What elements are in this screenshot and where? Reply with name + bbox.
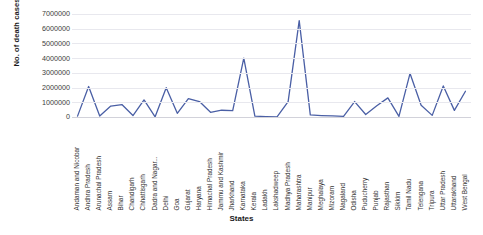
gridline [72, 29, 471, 30]
x-axis-tick-label: Madhya Pradesh [284, 162, 290, 210]
x-axis-tick-label: Karnataka [240, 181, 246, 210]
x-axis-tick-label: Sikkim [395, 191, 401, 210]
y-axis-tick-label: 0 [66, 113, 70, 120]
x-axis-tick-label: Kerala [251, 192, 257, 210]
line-chart: No. of death cases 700000060000005000000… [0, 0, 483, 235]
x-axis-tick-label: West Bengal [461, 174, 467, 210]
x-axis-tick-label: Maharashtra [295, 174, 301, 210]
x-axis-tick-label: Uttarakhand [450, 175, 456, 210]
y-axis-tick-label: 7000000 [42, 10, 70, 17]
gridline [72, 43, 471, 44]
x-axis-tick-label: Gujarat [184, 189, 190, 210]
x-axis-tick-label: Nagaland [340, 183, 346, 210]
x-axis-tick-label: Punjab [373, 190, 379, 210]
y-axis-tick-label: 4000000 [42, 55, 70, 62]
gridline [72, 102, 471, 103]
x-axis-tick-label: Rajasthan [384, 181, 390, 210]
x-axis-tick-label: Lakshadweep [273, 171, 279, 210]
x-axis-tick-label: Puducherry [362, 177, 368, 210]
x-axis-tick-label: Chhattisgarh [140, 174, 146, 210]
x-axis-tick-label: Bihar [118, 195, 124, 210]
x-axis-tick-label: Manipur [306, 187, 312, 210]
y-axis-tick-label: 6000000 [42, 25, 70, 32]
plot-area [72, 14, 471, 117]
gridline [72, 14, 471, 15]
x-axis-tick-label: Telengana [417, 181, 423, 211]
x-axis-tick-label: Delhi [162, 195, 168, 210]
x-axis-tick-label: Arunachal Pradesh [96, 156, 102, 210]
x-axis-tick-label: Mizoram [328, 186, 334, 211]
x-axis-title: States [0, 214, 483, 223]
x-axis-tick-label: Jharkhand [229, 180, 235, 210]
y-axis-tick-label: 3000000 [42, 69, 70, 76]
x-axis-tick-labels: Andaman and NicobarAndhra PradeshArunach… [72, 118, 471, 210]
x-axis-tick-label: Andaman and Nicobar [74, 146, 80, 210]
x-axis-tick-label: Tamil Nadu [406, 178, 412, 210]
x-axis-tick-label: Assam [107, 190, 113, 210]
x-axis-tick-label: Jammu and Kashmir [218, 151, 224, 210]
y-axis-tick-label: 2000000 [42, 84, 70, 91]
x-axis-tick-label: Himachal Pradesh [207, 158, 213, 210]
x-axis-tick-label: Goa [173, 198, 179, 210]
x-axis-tick-label: Uttar Pradesh [439, 171, 445, 210]
x-axis-tick-label: Andhra Pradesh [85, 164, 91, 210]
y-axis-tick-labels: 7000000600000050000004000000300000020000… [22, 14, 70, 117]
x-axis-tick-label: Ladakh [262, 189, 268, 210]
x-axis-tick-label: Chandigarh [129, 177, 135, 210]
x-axis-tick-label: Haryana [195, 186, 201, 210]
gridline [72, 58, 471, 59]
y-axis-tick-label: 1000000 [42, 99, 70, 106]
x-axis-tick-label: Odisha [351, 190, 357, 210]
y-axis-tick-label: 5000000 [42, 40, 70, 47]
x-axis-tick-label: Dadra and Nagar... [151, 156, 157, 210]
y-axis-title: No. of death cases [12, 0, 21, 93]
gridline [72, 88, 471, 89]
gridline [72, 73, 471, 74]
x-axis-tick-label: Tripura [428, 190, 434, 210]
x-axis-tick-label: Meghalaya [317, 179, 323, 210]
